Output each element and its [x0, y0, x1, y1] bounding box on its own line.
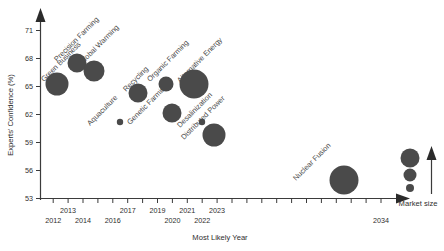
chart-canvas: 71 68 65 62 59 56 53 Experts' Confidence… — [0, 0, 444, 251]
x-tick-label-2014: 2014 — [75, 216, 91, 225]
label-aquaculture: Aquaculture — [85, 93, 119, 127]
y-tick-label: 53 — [25, 194, 33, 203]
legend-market-size: Market size — [399, 146, 438, 208]
y-tick-label: 62 — [25, 110, 33, 119]
bubble-chart: 71 68 65 62 59 56 53 Experts' Confidence… — [0, 0, 444, 251]
legend-title: Market size — [399, 199, 438, 208]
bubble-global-warming[interactable] — [84, 61, 105, 82]
legend-bubble-large — [401, 149, 420, 168]
y-axis-title: Experts' Confidence (%) — [6, 74, 15, 156]
x-tick-label-2017: 2017 — [120, 206, 136, 215]
label-nuclear-fusion: Nuclear Fusion — [291, 141, 333, 183]
bubble-aquaculture[interactable] — [117, 119, 123, 125]
legend-bubble-small — [406, 184, 414, 192]
x-ticks — [53, 199, 381, 204]
y-tick-label: 56 — [25, 166, 33, 175]
x-tick-label-2016: 2016 — [105, 216, 121, 225]
y-axis-arrow-icon — [36, 8, 46, 22]
bubble-distributed-power[interactable] — [203, 124, 226, 147]
x-axis-title: Most Likely Year — [192, 233, 248, 242]
legend-up-arrow-icon — [427, 146, 437, 160]
legend-bubble-medium — [404, 169, 417, 182]
data-point-labels: Green Business Precision Farming Global … — [39, 15, 333, 182]
x-tick-label-2020: 2020 — [164, 216, 180, 225]
x-tick-label-2013: 2013 — [60, 206, 76, 215]
y-axis: 71 68 65 62 59 56 53 Experts' Confidence… — [6, 8, 46, 203]
y-tick-label: 68 — [25, 54, 33, 63]
x-tick-label-2021: 2021 — [179, 206, 195, 215]
y-tick-label: 59 — [25, 138, 33, 147]
y-tick-label: 71 — [25, 26, 33, 35]
x-axis: 2013 2017 2019 2021 2023 2012 2014 2016 … — [41, 194, 411, 243]
bubble-nuclear-fusion[interactable] — [330, 166, 359, 195]
x-tick-label-2019: 2019 — [150, 206, 166, 215]
x-tick-label-2022: 2022 — [194, 216, 210, 225]
y-tick-label: 65 — [25, 82, 33, 91]
x-tick-label-2034: 2034 — [373, 216, 389, 225]
x-tick-label-2012: 2012 — [45, 216, 61, 225]
x-tick-label-2023: 2023 — [209, 206, 225, 215]
